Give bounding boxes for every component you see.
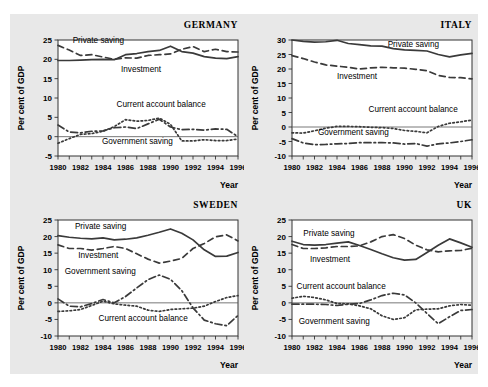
x-tick-label: 1984 (95, 163, 113, 172)
x-tick-label: 1996 (464, 163, 478, 172)
x-axis-title: Year (220, 360, 239, 370)
series-annotation: Current account balance (117, 100, 207, 109)
y-axis-title: Per cent of GDP (250, 245, 260, 310)
chart-panel-sweden: SWEDEN-10-505101520251980198219841986198… (10, 194, 244, 374)
y-tick-label: 20 (277, 65, 286, 74)
x-tick-label: 1988 (140, 163, 157, 172)
series-annotation: Investment (337, 72, 378, 81)
y-tick-label: 25 (277, 216, 286, 225)
x-axis-title: Year (454, 360, 473, 370)
x-tick-label: 1994 (441, 343, 459, 352)
y-tick-label: 20 (43, 55, 52, 64)
y-tick-label: 30 (277, 36, 286, 45)
x-tick-label: 1988 (140, 343, 157, 352)
x-axis-title: Year (454, 180, 473, 190)
y-tick-label: -5 (45, 315, 53, 324)
y-tick-label: -10 (40, 332, 52, 341)
x-tick-label: 1996 (230, 343, 244, 352)
y-tick-label: 5 (282, 282, 287, 291)
y-tick-label: -5 (279, 138, 287, 147)
y-tick-label: -10 (274, 332, 286, 341)
y-axis-title: Per cent of GDP (250, 65, 260, 130)
y-tick-label: 5 (282, 109, 287, 118)
x-tick-label: 1996 (464, 343, 478, 352)
series-annotation: Investment (78, 251, 119, 260)
y-tick-label: 5 (48, 113, 53, 122)
y-tick-label: 10 (43, 94, 52, 103)
figure-panel-grid: GERMANY-50510152025198019821984198619881… (10, 14, 478, 374)
series-annotation: Private saving (303, 229, 355, 238)
chart-panel-germany: GERMANY-50510152025198019821984198619881… (10, 14, 244, 194)
y-tick-label: 25 (43, 36, 52, 45)
x-tick-label: 1994 (207, 343, 225, 352)
x-tick-label: 1988 (374, 163, 391, 172)
y-tick-label: 20 (43, 233, 52, 242)
series-annotation: Current account balance (297, 282, 387, 291)
y-tick-label: -5 (279, 315, 287, 324)
x-tick-label: 1984 (329, 343, 347, 352)
y-tick-label: 0 (48, 299, 53, 308)
x-tick-label: 1982 (72, 343, 89, 352)
x-tick-label: 1980 (284, 163, 301, 172)
x-tick-label: 1984 (329, 163, 347, 172)
x-tick-label: 1982 (306, 343, 323, 352)
y-tick-label: 15 (43, 75, 52, 84)
y-tick-label: 25 (277, 51, 286, 60)
y-tick-label: 0 (282, 123, 287, 132)
x-tick-label: 1984 (95, 343, 113, 352)
series-annotation: Investment (121, 65, 162, 74)
x-tick-label: 1988 (374, 343, 391, 352)
x-tick-label: 1980 (284, 343, 301, 352)
x-tick-label: 1986 (117, 343, 134, 352)
series-annotation: Private saving (388, 40, 440, 49)
series-annotation: Current account balance (99, 314, 189, 323)
x-axis-title: Year (220, 180, 239, 190)
y-tick-label: 10 (277, 266, 286, 275)
x-tick-label: 1996 (230, 163, 244, 172)
x-tick-label: 1990 (396, 343, 413, 352)
series-annotation: Government saving (299, 317, 370, 326)
y-tick-label: 10 (277, 94, 286, 103)
chart-panel-uk: UK-10-5051015202519801982198419861988199… (244, 194, 478, 374)
panel-title: UK (457, 200, 472, 210)
y-tick-label: -5 (45, 152, 53, 161)
x-tick-label: 1980 (50, 163, 67, 172)
y-tick-label: 5 (48, 282, 53, 291)
x-tick-label: 1990 (162, 343, 179, 352)
x-tick-label: 1986 (117, 163, 134, 172)
x-tick-label: 1982 (72, 163, 89, 172)
series-annotation: Government saving (318, 128, 389, 137)
x-tick-label: 1990 (162, 163, 179, 172)
x-tick-label: 1990 (396, 163, 413, 172)
series-annotation: Current account balance (369, 105, 459, 114)
x-tick-label: 1992 (185, 343, 202, 352)
x-tick-label: 1992 (419, 163, 436, 172)
y-tick-label: -10 (274, 152, 286, 161)
y-tick-label: 15 (277, 80, 286, 89)
x-tick-label: 1986 (351, 163, 368, 172)
y-axis-title: Per cent of GDP (16, 245, 26, 310)
y-tick-label: 10 (43, 266, 52, 275)
x-tick-label: 1980 (50, 343, 67, 352)
x-tick-label: 1992 (185, 163, 202, 172)
series-annotation: Government saving (65, 267, 136, 276)
series-annotation: Investment (310, 255, 351, 264)
y-tick-label: 15 (43, 249, 52, 258)
y-tick-label: 20 (277, 233, 286, 242)
panel-title: SWEDEN (193, 200, 238, 210)
x-tick-label: 1982 (306, 163, 323, 172)
x-tick-label: 1994 (441, 163, 459, 172)
y-tick-label: 15 (277, 249, 286, 258)
y-tick-label: 0 (282, 299, 287, 308)
x-tick-label: 1986 (351, 343, 368, 352)
x-tick-label: 1992 (419, 343, 436, 352)
panel-title: ITALY (440, 20, 472, 30)
series-annotation: Private saving (73, 36, 125, 45)
series-annotation: Private saving (75, 222, 127, 231)
y-tick-label: 0 (48, 133, 53, 142)
chart-panel-italy: ITALY-10-5051015202530198019821984198619… (244, 14, 478, 194)
panel-title: GERMANY (184, 20, 238, 30)
series-annotation: Government saving (102, 137, 173, 146)
plot-area (292, 40, 472, 156)
y-axis-title: Per cent of GDP (16, 65, 26, 130)
